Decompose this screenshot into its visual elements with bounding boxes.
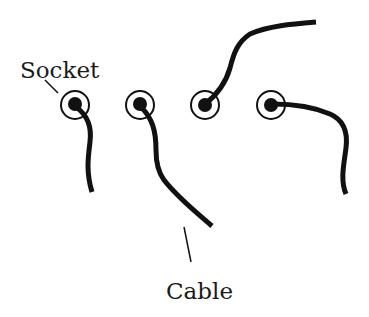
socket-cable-diagram: Socket Cable — [0, 0, 369, 317]
cable-2 — [141, 107, 212, 226]
cable-4 — [273, 104, 346, 194]
socket-3 — [191, 91, 219, 119]
socket-2 — [126, 91, 154, 119]
cable-3 — [205, 22, 316, 104]
cable-1 — [76, 107, 92, 192]
socket-1 — [61, 91, 89, 119]
cable-label: Cable — [166, 278, 233, 304]
socket-label: Socket — [20, 57, 100, 83]
cable-leader-line — [184, 227, 191, 262]
